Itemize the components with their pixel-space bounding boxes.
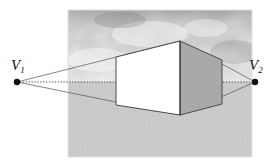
- v1-subscript: 1: [20, 65, 25, 75]
- figure-container: V1 V2: [0, 0, 279, 163]
- v2-subscript: 2: [258, 65, 263, 75]
- v2-letter: V: [249, 57, 258, 73]
- v1-letter: V: [11, 57, 20, 73]
- vanishing-point-dot-v2[interactable]: [252, 79, 258, 85]
- vanishing-point-label-v1: V1: [11, 58, 25, 75]
- cloud-shadow-a: [94, 12, 146, 28]
- cloud-highlight-b: [184, 19, 228, 37]
- vanishing-point-label-v2: V2: [249, 58, 263, 75]
- vanishing-point-dot-v1[interactable]: [14, 79, 20, 85]
- perspective-diagram-svg: [0, 0, 279, 163]
